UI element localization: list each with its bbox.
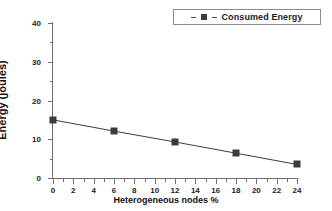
x-minor-tick-15	[206, 179, 207, 182]
x-tick-label-12: 12	[171, 186, 180, 195]
x-tick-label-10: 10	[150, 186, 159, 195]
x-tick-24	[297, 179, 298, 184]
y-axis-title: Energy (joules)	[0, 60, 8, 139]
data-point-6	[111, 128, 118, 135]
x-minor-tick-9	[145, 179, 146, 182]
x-minor-tick-21	[267, 179, 268, 182]
x-minor-tick-7	[124, 179, 125, 182]
legend-label-consumed-energy: Consumed Energy	[221, 12, 302, 22]
x-axis-title: Heterogeneous nodes %	[0, 195, 332, 205]
x-minor-tick-23	[287, 179, 288, 182]
y-tick-label-20: 20	[32, 96, 41, 105]
y-axis-title-text: Energy (joules)	[0, 60, 8, 139]
x-tick-label-0: 0	[51, 186, 55, 195]
legend-square-marker-icon	[201, 14, 207, 20]
legend-series-sample	[191, 13, 217, 22]
data-point-0	[50, 116, 57, 123]
x-tick-label-20: 20	[252, 186, 261, 195]
x-tick-label-18: 18	[232, 186, 241, 195]
y-tick-label-0: 0	[37, 174, 41, 183]
series-line-consumed-energy	[53, 23, 297, 178]
y-tick-label-40: 40	[32, 19, 41, 28]
x-minor-tick-1	[63, 179, 64, 182]
x-minor-tick-5	[104, 179, 105, 182]
legend-dash-left	[191, 17, 196, 18]
x-minor-tick-13	[185, 179, 186, 182]
plot-area: 010203040024681012141618202224	[53, 23, 297, 178]
x-tick-label-14: 14	[191, 186, 200, 195]
chart-figure: Consumed Energy Energy (joules) 01020304…	[0, 0, 332, 211]
x-minor-tick-3	[84, 179, 85, 182]
x-minor-tick-11	[165, 179, 166, 182]
x-tick-10	[155, 179, 156, 184]
legend-dash-right	[212, 17, 217, 18]
x-tick-22	[277, 179, 278, 184]
x-tick-14	[195, 179, 196, 184]
data-point-18	[233, 150, 240, 157]
x-tick-label-4: 4	[91, 186, 95, 195]
x-tick-label-16: 16	[211, 186, 220, 195]
x-tick-0	[53, 179, 54, 184]
x-tick-label-6: 6	[112, 186, 116, 195]
y-tick-label-30: 30	[32, 57, 41, 66]
x-tick-8	[134, 179, 135, 184]
x-minor-tick-19	[246, 179, 247, 182]
data-point-24	[294, 161, 301, 168]
x-tick-6	[114, 179, 115, 184]
x-tick-2	[73, 179, 74, 184]
data-point-12	[172, 138, 179, 145]
x-tick-20	[256, 179, 257, 184]
x-tick-4	[94, 179, 95, 184]
x-tick-18	[236, 179, 237, 184]
x-tick-12	[175, 179, 176, 184]
x-tick-16	[216, 179, 217, 184]
x-tick-label-2: 2	[71, 186, 75, 195]
x-tick-label-8: 8	[132, 186, 136, 195]
x-tick-label-22: 22	[272, 186, 281, 195]
x-tick-label-24: 24	[293, 186, 302, 195]
y-tick-label-10: 10	[32, 135, 41, 144]
x-minor-tick-17	[226, 179, 227, 182]
